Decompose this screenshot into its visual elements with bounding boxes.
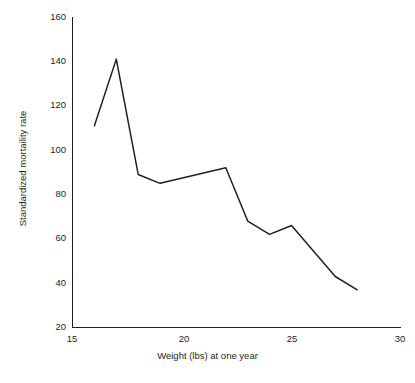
y-tick-label-140: 140 bbox=[32, 56, 66, 66]
y-tick-label-80: 80 bbox=[32, 189, 66, 199]
y-tick-label-120: 120 bbox=[32, 100, 66, 110]
x-tick-label-15: 15 bbox=[57, 334, 87, 344]
x-tick-label-20: 20 bbox=[169, 334, 199, 344]
x-tick-label-25: 25 bbox=[277, 334, 307, 344]
y-tick-label-160: 160 bbox=[32, 12, 66, 22]
data-series-line bbox=[94, 59, 357, 290]
y-tick-label-60: 60 bbox=[32, 233, 66, 243]
y-tick-label-20: 20 bbox=[32, 322, 66, 332]
y-tick-label-40: 40 bbox=[32, 278, 66, 288]
x-tick-label-30: 30 bbox=[385, 334, 415, 344]
x-axis-title: Weight (lbs) at one year bbox=[0, 350, 415, 361]
y-tick-label-100: 100 bbox=[32, 145, 66, 155]
chart-figure: 160 140 120 100 80 60 40 20 15 20 25 30 … bbox=[0, 0, 415, 383]
y-axis-title: Standardized mortaility rate bbox=[17, 69, 28, 269]
